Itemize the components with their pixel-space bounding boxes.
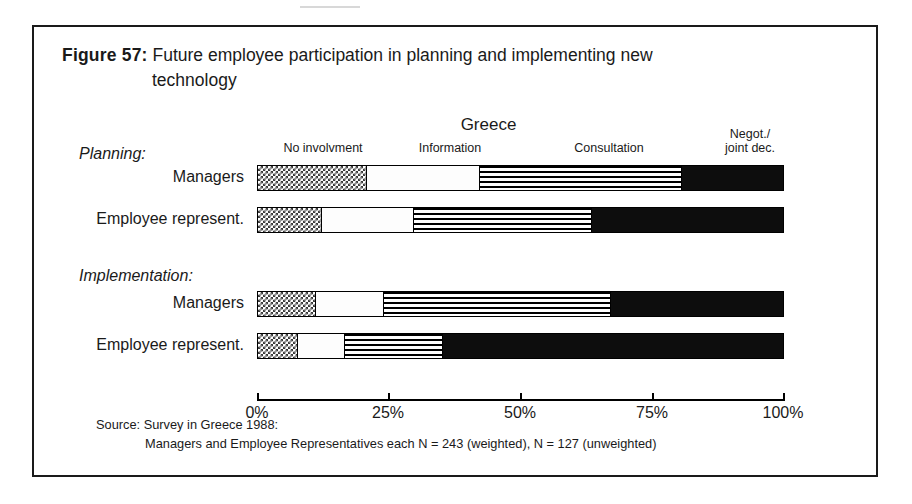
legend-label-negotiation: Negot./ joint dec. xyxy=(712,127,788,155)
bar-segment-consultation xyxy=(413,208,591,232)
source-note-line2: Managers and Employee Representatives ea… xyxy=(145,434,656,453)
x-axis-tick-label: 100% xyxy=(753,404,813,422)
source-note-line1: Source: Survey in Greece 1988: xyxy=(96,415,278,434)
bar-implementation-employee-represent xyxy=(257,333,784,359)
bar-segment-information xyxy=(315,292,384,316)
bar-segment-no-involvement xyxy=(258,166,366,190)
x-axis-tick-label: 75% xyxy=(622,404,682,422)
x-axis-tick xyxy=(257,393,259,400)
x-axis-tick xyxy=(652,393,654,400)
bar-segment-negotiation xyxy=(591,208,783,232)
bar-segment-no-involvement xyxy=(258,334,297,358)
bar-planning-employee-represent xyxy=(257,207,784,233)
x-axis-tick-label: 50% xyxy=(490,404,550,422)
chart-area: Greece No involvment Information Consult… xyxy=(34,27,876,475)
x-axis-tick-label: 25% xyxy=(358,404,418,422)
bar-segment-negotiation xyxy=(681,166,783,190)
bar-segment-consultation xyxy=(344,334,442,358)
legend-label-negotiation-line1: Negot./ xyxy=(730,127,770,141)
row-label-planning-employee-represent: Employee represent. xyxy=(44,210,244,228)
bar-implementation-managers xyxy=(257,291,784,317)
x-axis-tick xyxy=(520,393,522,400)
row-label-implementation-employee-represent: Employee represent. xyxy=(44,336,244,354)
bar-segment-information xyxy=(366,166,479,190)
x-axis-tick xyxy=(783,393,785,400)
row-label-implementation-managers: Managers xyxy=(44,294,244,312)
legend-label-consultation: Consultation xyxy=(506,141,712,155)
figure-frame: Figure 57: Future employee participation… xyxy=(32,25,878,477)
chart-subtitle-country: Greece xyxy=(225,115,752,135)
legend-label-no-involvement: No involvment xyxy=(257,141,389,155)
bar-segment-information xyxy=(297,334,343,358)
bar-segment-consultation xyxy=(383,292,609,316)
legend-label-information: Information xyxy=(394,141,506,155)
bar-segment-negotiation xyxy=(610,292,783,316)
bar-planning-managers xyxy=(257,165,784,191)
scan-artifact-top xyxy=(300,6,360,8)
bar-segment-no-involvement xyxy=(258,208,321,232)
group-title-implementation: Implementation: xyxy=(79,267,193,285)
bar-segment-consultation xyxy=(479,166,681,190)
row-label-planning-managers: Managers xyxy=(44,168,244,186)
x-axis-tick xyxy=(388,393,390,400)
bar-segment-information xyxy=(321,208,413,232)
bar-segment-no-involvement xyxy=(258,292,315,316)
bar-segment-negotiation xyxy=(442,334,783,358)
legend-label-negotiation-line2: joint dec. xyxy=(725,141,775,155)
group-title-planning: Planning: xyxy=(79,145,146,163)
